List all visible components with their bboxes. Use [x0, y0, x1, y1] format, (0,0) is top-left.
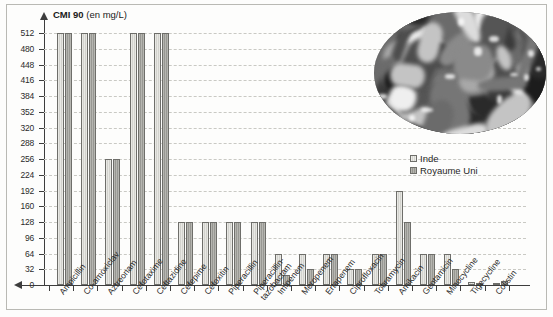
x-axis-tick-mark	[194, 285, 195, 291]
bar-group	[129, 33, 146, 285]
y-axis-tick-label: 512	[0, 29, 34, 38]
x-axis-tick-mark	[291, 285, 292, 291]
bar-group	[80, 33, 97, 285]
bar	[251, 222, 258, 285]
bar-group	[298, 33, 315, 285]
y-axis-tick-mark	[39, 285, 44, 286]
chart-figure: CMI 90 (en mg/L) 03264961281601922242562…	[0, 0, 553, 317]
photo-highlight	[421, 108, 433, 111]
y-axis-tick-label: 224	[0, 171, 34, 180]
bar-group	[153, 33, 170, 285]
axis-title-main: CMI 90	[53, 9, 84, 20]
bar-group	[225, 33, 242, 285]
photo-detail	[451, 42, 494, 82]
photo-highlight	[536, 67, 541, 71]
legend-entry: Royaume Uni	[410, 164, 478, 176]
legend-swatch-icon	[410, 155, 417, 162]
bar	[138, 33, 145, 285]
y-axis-tick-label: 288	[0, 139, 34, 148]
bar	[57, 33, 64, 285]
bar	[113, 159, 120, 285]
legend-label: Inde	[420, 153, 439, 164]
bar-group	[104, 33, 121, 285]
y-axis-tick-label: 64	[0, 250, 34, 259]
photo-highlight	[445, 74, 456, 78]
x-axis-tick-mark	[485, 285, 486, 291]
y-axis-tick-label: 192	[0, 187, 34, 196]
bar	[178, 222, 185, 285]
x-axis-tick-mark	[339, 285, 340, 291]
photo-highlight	[531, 13, 543, 21]
y-axis-tick-label: 320	[0, 124, 34, 133]
x-axis-tick-mark	[146, 285, 147, 291]
y-axis-tick-label: 0	[0, 281, 34, 290]
y-axis-tick-label: 128	[0, 218, 34, 227]
bar	[130, 33, 137, 285]
bar	[65, 33, 72, 285]
photo-highlight	[528, 50, 534, 57]
x-axis-tick-mark	[49, 285, 50, 291]
legend-swatch-icon	[410, 167, 417, 174]
pills-photo-icon	[374, 12, 546, 134]
bar-group	[274, 33, 291, 285]
bar-group	[250, 33, 267, 285]
bar	[89, 33, 96, 285]
y-axis-tick-label: 256	[0, 155, 34, 164]
y-axis-tick-label: 160	[0, 202, 34, 211]
bar	[154, 33, 161, 285]
bar-group	[346, 33, 363, 285]
axis-title: CMI 90 (en mg/L)	[53, 9, 127, 20]
y-axis-tick-label: 480	[0, 45, 34, 54]
photo-highlight	[474, 47, 481, 56]
x-axis-tick-mark	[436, 285, 437, 291]
x-axis-tick-mark	[412, 285, 413, 291]
x-axis-tick-mark	[170, 285, 171, 291]
legend-entry: Inde	[410, 152, 478, 164]
bar	[81, 33, 88, 285]
x-axis-tick-mark	[509, 285, 510, 291]
x-axis-tick-mark	[97, 285, 98, 291]
y-axis-tick-label: 96	[0, 234, 34, 243]
y-axis-tick-label: 448	[0, 61, 34, 70]
bar	[202, 222, 209, 285]
photo-highlight	[489, 36, 499, 42]
axis-title-unit: (en mg/L)	[86, 9, 127, 20]
x-axis-tick-mark	[267, 285, 268, 291]
x-axis-tick-mark	[218, 285, 219, 291]
y-axis-tick-label: 352	[0, 108, 34, 117]
x-axis-tick-mark	[388, 285, 389, 291]
x-axis-tick-mark	[243, 285, 244, 291]
x-axis-tick-mark	[73, 285, 74, 291]
bar	[226, 222, 233, 285]
y-axis-tick-label: 416	[0, 76, 34, 85]
bar-group	[322, 33, 339, 285]
chart-legend: IndeRoyaume Uni	[410, 152, 478, 176]
x-axis-tick-mark	[460, 285, 461, 291]
x-axis-tick-mark	[122, 285, 123, 291]
y-axis-tick-label: 32	[0, 265, 34, 274]
photo-highlight	[378, 94, 387, 99]
y-axis-arrow-icon	[40, 12, 48, 20]
bar-group	[56, 33, 73, 285]
bar	[162, 33, 169, 285]
legend-label: Royaume Uni	[420, 165, 478, 176]
bar-group	[201, 33, 218, 285]
x-axis-tick-mark	[364, 285, 365, 291]
bar-group	[177, 33, 194, 285]
photo-highlight	[534, 119, 538, 123]
y-axis-tick-label: 384	[0, 92, 34, 101]
x-axis-tick-mark	[315, 285, 316, 291]
